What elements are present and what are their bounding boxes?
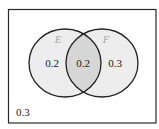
value-intersection: 0.2 (76, 57, 90, 69)
venn-diagram: E F 0.2 0.2 0.3 0.3 (0, 0, 159, 129)
value-f-only: 0.3 (108, 57, 122, 69)
value-outside: 0.3 (16, 106, 30, 118)
set-label-e: E (54, 33, 62, 45)
set-label-f: F (102, 33, 110, 45)
value-e-only: 0.2 (45, 57, 59, 69)
